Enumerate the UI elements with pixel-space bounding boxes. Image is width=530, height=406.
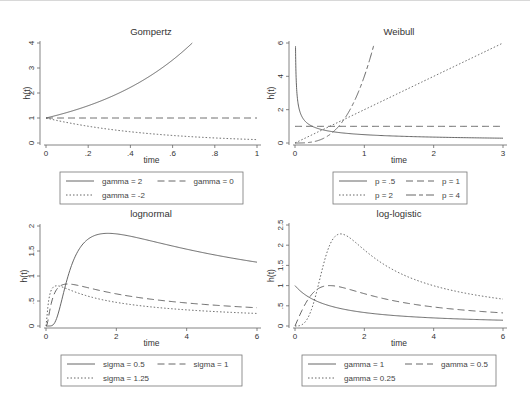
- x-tick-label: .8: [211, 149, 218, 158]
- legend-label: sigma = 0.5: [103, 360, 145, 369]
- series-line-sigma-0.5: [46, 233, 257, 326]
- y-tick-label: 0: [27, 323, 36, 328]
- chart-panel-weibull: Weibull0246h(t)0123timep = .5p = 1p = 2p…: [266, 26, 507, 204]
- y-tick-label: 1: [27, 115, 36, 120]
- x-tick-label: 4: [184, 332, 189, 341]
- y-tick-label: 2: [27, 223, 36, 228]
- legend-label: sigma = 1.25: [103, 374, 150, 383]
- y-tick-label: 0: [27, 140, 36, 145]
- series-line-p-2: [295, 43, 503, 143]
- legend-label: gamma = 1: [344, 360, 385, 369]
- y-axis-label: h(t): [266, 269, 276, 282]
- legend: p = .5p = 1p = 2p = 4: [333, 172, 467, 204]
- x-tick-label: 1: [362, 149, 367, 158]
- legend-label: sigma = 1: [194, 360, 229, 369]
- x-tick-label: 0: [44, 149, 49, 158]
- chart-panel-log-logistic: log-logistic0.511.522.5h(t)0246timegamma…: [266, 208, 507, 386]
- chart-canvas: Gompertz01234h(t)0.2.4.6.81timegamma = 2…: [0, 0, 530, 406]
- x-tick-label: 6: [501, 332, 506, 341]
- x-tick-label: 6: [255, 332, 260, 341]
- chart-title: Gompertz: [130, 26, 172, 37]
- y-axis-label: h(t): [22, 86, 32, 99]
- y-tick-label: 0: [276, 140, 285, 145]
- x-axis-label: time: [391, 155, 407, 165]
- legend-label: gamma = 0.5: [441, 360, 488, 369]
- x-tick-label: 0: [293, 149, 298, 158]
- x-tick-label: .4: [127, 149, 134, 158]
- legend-label: p = .5: [375, 177, 396, 186]
- series-line-gamma-0.5: [295, 286, 503, 326]
- series-line-gamma-2: [46, 43, 192, 118]
- x-axis-label: time: [143, 155, 159, 165]
- chart-title: lognormal: [130, 208, 172, 219]
- legend-label: gamma = -2: [102, 191, 145, 200]
- x-tick-label: 3: [501, 149, 506, 158]
- y-axis-label: h(t): [266, 86, 276, 99]
- x-tick-label: 0: [293, 332, 298, 341]
- x-tick-label: .6: [169, 149, 176, 158]
- legend-label: gamma = 0.25: [344, 374, 396, 383]
- x-tick-label: 2: [362, 332, 367, 341]
- y-tick-label: .5: [276, 302, 285, 309]
- legend: sigma = 0.5sigma = 1sigma = 1.25: [61, 355, 242, 386]
- series-line-gamma-2: [46, 118, 257, 140]
- x-tick-label: 4: [431, 332, 436, 341]
- y-tick-label: 2: [276, 107, 285, 112]
- legend: gamma = 1gamma = 0.5gamma = 0.25: [302, 355, 496, 386]
- x-tick-label: 2: [114, 332, 119, 341]
- y-tick-label: .5: [27, 297, 36, 304]
- y-tick-label: 4: [276, 74, 285, 79]
- series-line-gamma-1: [295, 286, 503, 321]
- y-tick-label: 2: [276, 242, 285, 247]
- y-tick-label: 4: [27, 40, 36, 45]
- series-line-gamma-0.25: [295, 234, 503, 326]
- x-tick-label: 0: [44, 332, 49, 341]
- x-axis-label: time: [391, 338, 407, 348]
- chart-title: Weibull: [384, 26, 415, 37]
- series-line-p-.5: [296, 46, 503, 138]
- legend-label: gamma = 2: [102, 177, 143, 186]
- chart-title: log-logistic: [377, 208, 422, 219]
- x-tick-label: 1: [255, 149, 260, 158]
- x-axis-label: time: [143, 338, 159, 348]
- y-tick-label: 3: [27, 65, 36, 70]
- legend-label: p = 2: [375, 191, 394, 200]
- y-tick-label: 0: [276, 323, 285, 328]
- y-tick-label: 1.5: [276, 259, 285, 271]
- x-tick-label: .2: [85, 149, 92, 158]
- y-tick-label: 6: [276, 40, 285, 45]
- chart-panel-lognormal: lognormal0.511.52h(t)0246timesigma = 0.5…: [19, 208, 261, 386]
- y-tick-label: 2.5: [276, 219, 285, 231]
- y-axis-label: h(t): [19, 269, 29, 282]
- x-tick-label: 2: [431, 149, 436, 158]
- legend-label: gamma = 0: [194, 177, 235, 186]
- legend-label: p = 4: [442, 191, 461, 200]
- series-line-sigma-1: [46, 284, 257, 326]
- y-tick-label: 1.5: [27, 245, 36, 257]
- series-line-p-4: [295, 44, 374, 143]
- legend-label: p = 1: [442, 177, 461, 186]
- legend: gamma = 2gamma = 0gamma = -2: [60, 172, 243, 204]
- chart-panel-gompertz: Gompertz01234h(t)0.2.4.6.81timegamma = 2…: [22, 26, 261, 204]
- y-tick-label: 1: [276, 283, 285, 288]
